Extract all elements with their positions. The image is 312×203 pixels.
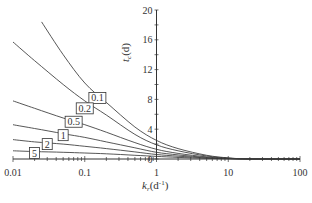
y-tick-label: 20: [143, 5, 153, 16]
curve-label-1: 1: [58, 130, 68, 141]
curve-label-0.1: 0.1: [89, 92, 106, 103]
curve-label-0.5: 0.5: [65, 116, 82, 127]
y-tick-label: 4: [148, 124, 153, 135]
svg-text:0.1: 0.1: [91, 92, 104, 103]
curve-label-0.2: 0.2: [76, 103, 93, 114]
axes: [13, 10, 300, 162]
x-tick-label: 10: [223, 167, 233, 178]
x-tick-label: 100: [293, 167, 308, 178]
x-tick-label: 0.1: [79, 167, 92, 178]
y-tick-label: 16: [143, 34, 153, 45]
curve-labels: 0.10.20.5125: [30, 92, 106, 158]
y-tick-label: 12: [143, 64, 153, 75]
svg-text:2: 2: [45, 139, 50, 150]
curve-0.1: [42, 22, 300, 159]
svg-text:0.2: 0.2: [79, 103, 92, 114]
y-tick-label: 0: [148, 154, 153, 165]
svg-text:0.5: 0.5: [67, 116, 80, 127]
svg-text:1: 1: [61, 130, 66, 141]
x-tick-label: 1: [154, 167, 159, 178]
y-tick-label: 8: [148, 94, 153, 105]
svg-text:5: 5: [32, 148, 37, 159]
y-axis-label: tc(d): [119, 43, 133, 62]
x-axis-label: kr(d-1): [142, 179, 169, 193]
curve-label-5: 5: [30, 148, 40, 159]
x-tick-label: 0.01: [4, 167, 22, 178]
chart: 0.10.20.5125 0.010.1110100048121620 kr(d…: [0, 0, 312, 203]
curve-label-2: 2: [42, 139, 52, 150]
